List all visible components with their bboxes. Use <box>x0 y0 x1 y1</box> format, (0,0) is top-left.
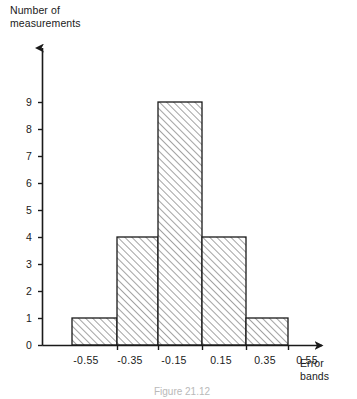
chart-canvas <box>0 0 357 399</box>
ytick-label-5: 5 <box>10 205 32 216</box>
ytick-label-7: 7 <box>10 151 32 162</box>
histogram-chart: Number of measurements <box>0 0 357 399</box>
xtick-label-0.35: 0.35 <box>243 355 287 366</box>
ytick-label-3: 3 <box>10 259 32 270</box>
bar-0.55 <box>246 318 288 345</box>
ytick-label-9: 9 <box>10 97 32 108</box>
xtick-label-0.15: 0.15 <box>199 355 243 366</box>
ytick-label-4: 4 <box>10 232 32 243</box>
bar-minus-0.55 <box>72 318 117 345</box>
xtick-label-minus-0.15: -0.15 <box>152 355 196 366</box>
bars-group <box>72 102 288 345</box>
bar-minus-0.15 <box>158 102 202 345</box>
ytick-label-1: 1 <box>10 313 32 324</box>
bar-minus-0.35 <box>117 237 158 345</box>
x-axis-title: Error bands <box>300 357 329 383</box>
ytick-label-0: 0 <box>10 340 32 351</box>
x-axis-title-line2: bands <box>300 370 329 383</box>
ytick-label-2: 2 <box>10 286 32 297</box>
xtick-label-minus-0.55: -0.55 <box>64 355 108 366</box>
ytick-label-6: 6 <box>10 178 32 189</box>
x-axis-title-line1: Error <box>300 357 329 370</box>
bar-0.35 <box>202 237 246 345</box>
figure-caption: Figure 21.12 <box>72 386 292 398</box>
xtick-label-minus-0.35: -0.35 <box>108 355 152 366</box>
ytick-label-8: 8 <box>10 124 32 135</box>
